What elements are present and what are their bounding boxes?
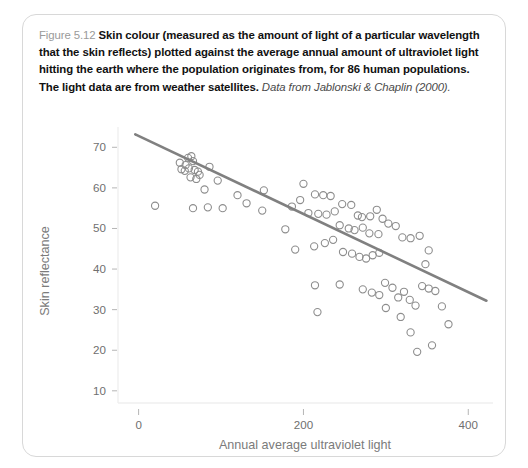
data-point xyxy=(336,222,343,229)
x-tick-label: 400 xyxy=(459,418,478,431)
figure-page: Figure 5.12 Skin colour (measured as the… xyxy=(0,0,528,468)
data-point xyxy=(399,234,406,241)
y-tick-label: 30 xyxy=(93,303,106,316)
data-point xyxy=(400,288,407,295)
axes xyxy=(118,127,493,403)
trend-line xyxy=(135,134,486,300)
data-point xyxy=(189,205,196,212)
data-point xyxy=(311,282,318,289)
data-point xyxy=(356,253,363,260)
y-tick-label: 50 xyxy=(93,221,106,234)
x-tick-label: 0 xyxy=(135,418,141,431)
data-point xyxy=(382,304,389,311)
data-point xyxy=(314,308,321,315)
data-point xyxy=(297,196,304,203)
data-point xyxy=(359,224,366,231)
data-point xyxy=(438,303,445,310)
data-point xyxy=(339,248,346,255)
figure-caption: Figure 5.12 Skin colour (measured as the… xyxy=(39,27,489,96)
data-point xyxy=(392,222,399,229)
y-axis-title: Skin reflectance xyxy=(38,226,52,316)
plot-svg: 10203040506070 0200400 Skin reflectance … xyxy=(23,103,505,457)
figure-label: Figure 5.12 xyxy=(39,29,96,41)
data-point xyxy=(348,250,355,257)
data-point xyxy=(389,284,396,291)
data-point xyxy=(406,296,413,303)
y-tick-label: 70 xyxy=(93,140,106,153)
data-point xyxy=(330,236,337,243)
data-point xyxy=(348,201,355,208)
data-point xyxy=(339,201,346,208)
data-point xyxy=(385,220,392,227)
data-point xyxy=(219,205,226,212)
data-point xyxy=(359,286,366,293)
y-tick-label: 20 xyxy=(93,343,106,356)
data-point xyxy=(445,321,452,328)
data-point xyxy=(300,180,307,187)
y-axis-ticks: 10203040506070 xyxy=(93,140,117,397)
data-point xyxy=(243,200,250,207)
data-point xyxy=(321,239,328,246)
data-point xyxy=(416,232,423,239)
y-tick-label: 40 xyxy=(93,262,106,275)
data-point xyxy=(432,287,439,294)
data-point xyxy=(354,212,361,219)
data-point xyxy=(397,313,404,320)
data-point xyxy=(407,329,414,336)
data-point xyxy=(422,261,429,268)
data-point xyxy=(381,279,388,286)
data-point xyxy=(414,348,421,355)
data-point xyxy=(358,214,365,221)
data-point xyxy=(292,246,299,253)
x-axis-title: Annual average ultraviolet light xyxy=(219,438,392,452)
y-tick-label: 10 xyxy=(93,384,106,397)
data-point xyxy=(204,204,211,211)
data-point xyxy=(395,294,402,301)
data-point xyxy=(327,192,334,199)
data-point xyxy=(366,230,373,237)
data-point xyxy=(311,243,318,250)
data-point xyxy=(331,208,338,215)
data-point xyxy=(425,247,432,254)
data-point xyxy=(367,213,374,220)
data-point xyxy=(259,207,266,214)
data-point xyxy=(336,281,343,288)
data-point xyxy=(375,231,382,238)
y-tick-label: 60 xyxy=(93,181,106,194)
data-point xyxy=(214,177,221,184)
data-point xyxy=(320,192,327,199)
data-point xyxy=(373,206,380,213)
data-point xyxy=(315,210,322,217)
data-point xyxy=(323,211,330,218)
data-point xyxy=(376,291,383,298)
data-point xyxy=(201,186,208,193)
data-point xyxy=(151,202,158,209)
data-point xyxy=(368,289,375,296)
data-point xyxy=(428,342,435,349)
scatter-plot: 10203040506070 0200400 Skin reflectance … xyxy=(23,103,505,457)
x-tick-label: 200 xyxy=(294,418,313,431)
data-points xyxy=(151,153,452,356)
data-point xyxy=(282,226,289,233)
data-point xyxy=(407,235,414,242)
data-point xyxy=(311,191,318,198)
data-point xyxy=(234,192,241,199)
caption-source: Data from Jablonski & Chaplin (2000). xyxy=(262,81,451,93)
figure-card: Figure 5.12 Skin colour (measured as the… xyxy=(22,14,506,457)
data-point xyxy=(412,302,419,309)
x-axis-ticks: 0200400 xyxy=(135,409,478,431)
